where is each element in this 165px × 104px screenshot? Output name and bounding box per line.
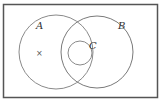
venn-diagram: A B C ×: [0, 0, 165, 104]
set-b-label: B: [117, 20, 125, 31]
element-marker: ×: [36, 49, 43, 58]
set-a-label: A: [35, 20, 43, 31]
set-a-circle: [19, 15, 93, 89]
set-c-label: C: [89, 40, 97, 51]
